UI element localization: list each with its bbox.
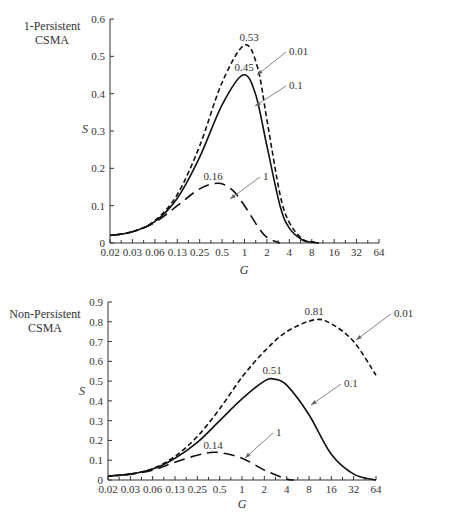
panel-title: CSMA <box>35 33 69 47</box>
x-tick-label: 32 <box>351 246 362 258</box>
series-name-label: 0.01 <box>289 45 308 57</box>
peak-value-label: 0.16 <box>203 170 223 182</box>
x-tick-label: 0.02 <box>100 246 119 258</box>
series-name-label: 0.1 <box>344 377 358 389</box>
x-tick-label: 0.5 <box>213 483 227 495</box>
x-tick-label: 1 <box>239 483 245 495</box>
x-tick-label: 4 <box>287 246 293 258</box>
y-axis-title: S <box>79 384 85 398</box>
y-tick-label: 0.6 <box>91 13 105 25</box>
x-tick-label: 0.02 <box>98 483 117 495</box>
series-curve-0_1 <box>110 75 319 243</box>
arrow-head-icon <box>311 400 317 405</box>
x-tick-label: 16 <box>326 483 338 495</box>
panel-title: Non-Persistent <box>9 307 81 321</box>
x-tick-label: 0.25 <box>188 483 208 495</box>
arrow-head-icon <box>356 335 362 340</box>
y-tick-label: 0.3 <box>91 125 105 137</box>
peak-value-label: 0.53 <box>239 31 259 43</box>
x-tick-label: 2 <box>264 246 270 258</box>
peak-value-label: 0.51 <box>262 364 281 376</box>
x-tick-label: 0.03 <box>123 246 143 258</box>
series-curve-0_01 <box>110 45 319 243</box>
series-name-label: 0.01 <box>394 307 413 319</box>
arrow-head-icon <box>230 194 236 199</box>
series-curve-1 <box>110 183 280 243</box>
y-tick-label: 0.4 <box>89 395 103 407</box>
x-tick-label: 64 <box>371 483 383 495</box>
series-curve-1 <box>108 452 294 480</box>
series-name-label: 1 <box>263 170 269 182</box>
x-tick-label: 0.03 <box>121 483 141 495</box>
y-tick-label: 0.2 <box>89 434 103 446</box>
chart-non-persistent-csma: 00.10.20.30.40.50.60.70.80.90.020.030.06… <box>9 296 413 511</box>
x-tick-label: 8 <box>306 483 312 495</box>
x-tick-label: 0.25 <box>190 246 210 258</box>
panel-title: CSMA <box>28 321 62 335</box>
peak-value-label: 0.45 <box>234 61 254 73</box>
y-tick-label: 0.6 <box>89 355 103 367</box>
y-tick-label: 0.4 <box>91 88 105 100</box>
y-tick-label: 0.8 <box>89 316 103 328</box>
x-tick-label: 1 <box>242 246 248 258</box>
x-axis-title: G <box>238 497 247 511</box>
peak-value-label: 0.81 <box>304 305 323 317</box>
series-name-label: 0.1 <box>289 79 303 91</box>
y-tick-label: 0.7 <box>89 336 103 348</box>
x-tick-label: 0.13 <box>165 483 185 495</box>
y-tick-label: 0.9 <box>89 296 103 308</box>
y-tick-label: 0.3 <box>89 415 103 427</box>
x-tick-label: 0.06 <box>145 246 165 258</box>
x-axis-title: G <box>240 263 249 277</box>
y-tick-label: 0.2 <box>91 162 105 174</box>
y-tick-label: 0.5 <box>91 50 105 62</box>
x-tick-label: 0.5 <box>215 246 229 258</box>
y-tick-label: 0.1 <box>91 200 105 212</box>
x-tick-label: 16 <box>329 246 341 258</box>
x-tick-label: 4 <box>284 483 290 495</box>
arrow-line <box>356 314 391 340</box>
series-curve-0_1 <box>108 379 376 480</box>
y-tick-label: 0.5 <box>89 375 103 387</box>
peak-value-label: 0.14 <box>203 439 223 451</box>
panel-title: 1-Persistent <box>24 19 81 33</box>
csma-throughput-figure: 00.10.20.30.40.50.60.020.030.060.130.250… <box>0 0 467 519</box>
y-tick-label: 0.1 <box>89 454 103 466</box>
series-curve-0_01 <box>108 319 376 476</box>
series-name-label: 1 <box>276 426 282 438</box>
y-axis-title: S <box>82 122 88 136</box>
x-tick-label: 0.13 <box>168 246 188 258</box>
x-tick-label: 64 <box>374 246 386 258</box>
x-tick-label: 8 <box>309 246 315 258</box>
x-tick-label: 2 <box>262 483 268 495</box>
chart-1-persistent-csma: 00.10.20.30.40.50.60.020.030.060.130.250… <box>24 13 385 277</box>
x-tick-label: 0.06 <box>143 483 163 495</box>
x-tick-label: 32 <box>348 483 359 495</box>
